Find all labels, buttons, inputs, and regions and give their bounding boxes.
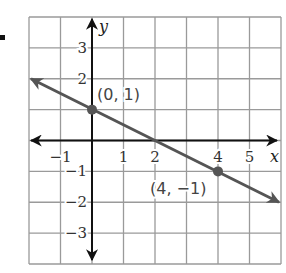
coordinate-plane: xy−1124532−1−2−3 (0, 1)(4, −1) [0, 0, 286, 273]
data-point [87, 105, 97, 115]
y-tick-label: 2 [77, 70, 87, 88]
x-tick-label: 1 [119, 148, 129, 166]
data-point [213, 166, 223, 176]
y-tick-label: −1 [65, 162, 87, 180]
y-axis-label: y [98, 17, 109, 36]
bullet-marker [0, 35, 5, 40]
y-tick-label: −3 [65, 224, 87, 242]
y-tick-label: −2 [65, 193, 87, 211]
point-label: (4, −1) [150, 179, 206, 198]
x-axis-label: x [270, 147, 279, 166]
point-label: (0, 1) [97, 85, 140, 104]
y-tick-label: 3 [77, 39, 87, 57]
coordinate-plane-figure: xy−1124532−1−2−3 (0, 1)(4, −1) [0, 0, 286, 273]
x-tick-label: 5 [245, 148, 255, 166]
tick-labels: xy−1124532−1−2−3 [49, 17, 279, 242]
x-tick-label: 4 [213, 148, 223, 166]
x-tick-label: 2 [150, 148, 160, 166]
